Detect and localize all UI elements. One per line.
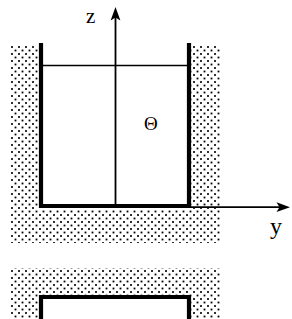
lower-container-interior: [41, 298, 189, 319]
z-axis-label: z: [86, 6, 95, 27]
lower-hatched-medium: [0, 0, 292, 319]
diagram-svg: [0, 0, 292, 319]
theta-symbol-label: Θ: [144, 114, 158, 133]
diagram-canvas: z y Θ: [0, 0, 292, 319]
lower-panel: [0, 0, 292, 319]
y-axis-label: y: [270, 214, 282, 238]
